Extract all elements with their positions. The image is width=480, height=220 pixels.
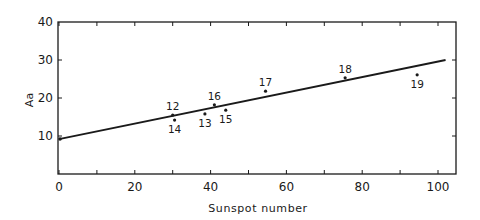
y-axis-ticks: 10203040 xyxy=(38,15,456,143)
fit-line xyxy=(59,60,446,139)
data-point-label: 18 xyxy=(338,63,351,75)
data-point-label: 16 xyxy=(208,90,222,102)
data-point xyxy=(416,73,419,76)
data-point-label: 14 xyxy=(168,123,182,135)
y-tick-label: 10 xyxy=(38,129,53,143)
x-tick-label: 40 xyxy=(203,180,218,194)
y-axis-label: Aa xyxy=(23,93,36,107)
data-point-label: 13 xyxy=(198,117,211,129)
x-tick-label: 20 xyxy=(127,180,142,194)
regression-line xyxy=(59,60,446,139)
data-point-label: 12 xyxy=(166,100,179,112)
x-tick-label: 100 xyxy=(427,180,450,194)
data-point-label: 17 xyxy=(259,76,272,88)
x-axis-label: Sunspot number xyxy=(208,202,308,215)
x-tick-label: 60 xyxy=(279,180,294,194)
data-point xyxy=(224,109,227,112)
x-tick-label: 80 xyxy=(355,180,370,194)
y-tick-label: 30 xyxy=(38,53,53,67)
data-point xyxy=(264,90,267,93)
y-tick-label: 40 xyxy=(38,15,53,29)
data-point xyxy=(171,114,174,117)
data-point xyxy=(213,103,216,106)
scatter-chart: 020406080100 10203040 1214131615171819 S… xyxy=(0,0,480,220)
data-point-label: 15 xyxy=(219,113,232,125)
y-tick-label: 20 xyxy=(38,91,53,105)
x-tick-label: 0 xyxy=(55,180,63,194)
data-point xyxy=(203,112,206,115)
x-axis-ticks: 020406080100 xyxy=(55,22,449,194)
data-point xyxy=(58,137,62,141)
data-point xyxy=(173,118,176,121)
data-point xyxy=(344,76,347,79)
data-point-label: 19 xyxy=(410,78,423,90)
